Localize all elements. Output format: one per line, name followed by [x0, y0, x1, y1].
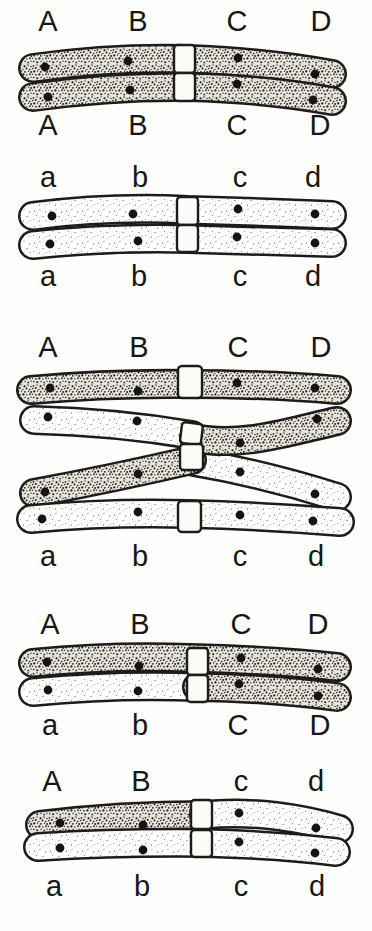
locus-label: c: [233, 262, 248, 291]
locus-label: c: [234, 872, 249, 901]
centromere-box: [177, 197, 198, 225]
locus-label: A: [42, 767, 61, 796]
chromatid-body-dark: [33, 657, 337, 667]
locus-label: b: [132, 163, 148, 192]
locus-label: d: [308, 542, 324, 571]
chromatid-body-dark: [34, 460, 192, 493]
locus-label: a: [42, 711, 58, 740]
locus-label: B: [128, 111, 147, 140]
locus-label: a: [40, 542, 56, 571]
locus-label: C: [228, 711, 249, 740]
centromere-box: [178, 501, 201, 532]
centromere-box: [180, 444, 203, 470]
locus-label: D: [311, 333, 332, 362]
centromere-box: [174, 45, 195, 73]
locus-label: d: [305, 163, 321, 192]
locus-label: C: [231, 610, 252, 639]
chromatid-body-dark: [40, 815, 204, 825]
locus-label: d: [309, 872, 325, 901]
locus-label: D: [308, 610, 329, 639]
locus-label: c: [233, 163, 248, 192]
locus-label: b: [131, 262, 147, 291]
locus-label: b: [132, 542, 148, 571]
centromere-box: [178, 366, 202, 398]
recombinant-pair-upper: [33, 648, 337, 702]
chromatid-body-light: [38, 843, 336, 852]
centromere-box: [187, 675, 208, 702]
centromere-box: [177, 225, 198, 252]
chromatid-body-light: [34, 420, 192, 435]
locus-label: a: [46, 872, 62, 901]
light-chromosome-pair: [33, 197, 332, 252]
locus-label: A: [38, 333, 57, 362]
locus-label: d: [305, 262, 321, 291]
dark-chromosome-pair: [33, 45, 332, 104]
centromere-box: [187, 648, 208, 675]
locus-label: D: [311, 7, 332, 36]
locus-label: B: [129, 333, 148, 362]
centromere-box: [174, 73, 195, 101]
chromatid-body-light: [33, 686, 197, 692]
locus-label: A: [40, 610, 59, 639]
locus-label: b: [132, 711, 148, 740]
locus-label: C: [227, 7, 248, 36]
locus-label: d: [308, 767, 324, 796]
locus-label: C: [228, 333, 249, 362]
locus-label: D: [310, 711, 331, 740]
centromere-box: [191, 830, 212, 857]
locus-label: b: [134, 872, 150, 901]
crossing-over-tetrad: [31, 366, 340, 532]
locus-label: B: [130, 610, 149, 639]
recombinant-pair-lower: [38, 800, 339, 857]
locus-label: c: [233, 542, 248, 571]
locus-label: A: [38, 7, 57, 36]
locus-label: B: [131, 767, 150, 796]
locus-label: a: [40, 262, 56, 291]
centromere-box: [191, 800, 212, 829]
locus-label: B: [128, 7, 147, 36]
locus-label: c: [234, 767, 249, 796]
locus-label: A: [38, 111, 57, 140]
locus-label: C: [227, 111, 248, 140]
crossing-over-figure: A B C D A B C D a b c d a b c d A B C D …: [0, 0, 372, 931]
centromere-box: [180, 422, 203, 445]
locus-label: D: [310, 111, 331, 140]
locus-label: a: [40, 163, 56, 192]
